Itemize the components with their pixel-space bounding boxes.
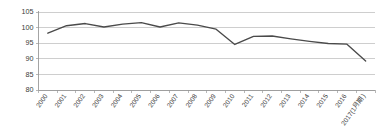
x-tick-label: 2008 [184,92,198,108]
x-tick-label: 2001 [53,92,67,108]
y-tick-label: 105 [22,7,34,16]
x-tick-label: 2009 [203,92,217,108]
y-axis: 80859095100105 [22,7,39,94]
x-tick-label: 2002 [72,92,86,108]
x-tick-label: 2003 [91,92,105,108]
x-tick-label: 2014 [296,92,310,108]
chart-canvas: 80859095100105 2000200120022003200420052… [0,0,382,134]
series-line-0 [48,23,366,61]
x-tick-label: 2006 [147,92,161,108]
line-chart: 80859095100105 2000200120022003200420052… [0,0,382,134]
x-tick-label: 2012 [259,92,273,108]
data-series [48,23,366,61]
x-tick-label: 2016 [334,92,348,108]
x-tick-label: 2011 [240,92,254,108]
y-tick-label: 85 [26,70,34,79]
x-tick-label: 2007 [165,92,179,108]
x-tick-label: 2000 [35,92,49,108]
y-tick-label: 90 [26,54,34,63]
y-tick-label: 80 [26,85,34,94]
y-tick-label: 100 [22,23,34,32]
x-tick-label: 2004 [109,92,123,108]
x-tick-label: 2013 [278,92,292,108]
x-tick-label: 2015 [315,92,329,108]
x-tick-label: 2010 [221,92,235,108]
y-tick-label: 95 [26,38,34,47]
x-tick-label: 2005 [128,92,142,108]
x-axis: 2000200120022003200420052006200720082009… [35,90,375,127]
